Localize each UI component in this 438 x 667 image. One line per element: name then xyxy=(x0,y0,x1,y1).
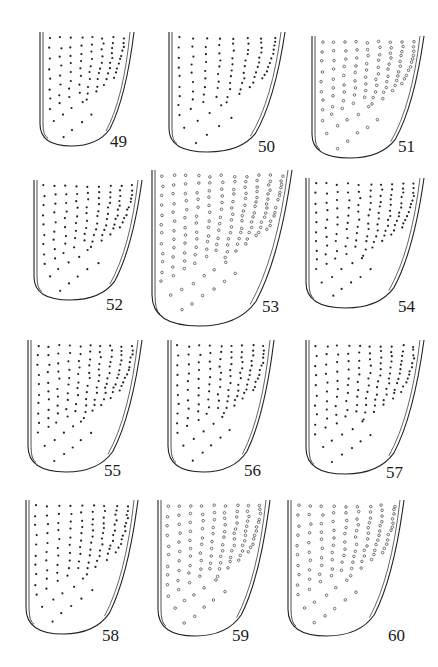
puncture-dot xyxy=(326,400,328,402)
puncture-dot xyxy=(35,555,37,557)
puncture-dot xyxy=(100,404,102,406)
puncture-dot xyxy=(365,63,368,66)
puncture-dot xyxy=(274,41,276,43)
puncture-dot xyxy=(57,405,59,407)
puncture-dot xyxy=(336,124,339,127)
puncture-dot xyxy=(264,212,267,215)
puncture-dot xyxy=(230,357,232,359)
puncture-dot xyxy=(201,537,204,540)
puncture-dot xyxy=(166,534,169,537)
puncture-dot xyxy=(118,200,120,202)
puncture-dot xyxy=(332,49,335,52)
puncture-dot xyxy=(69,46,71,48)
puncture-dot xyxy=(231,69,233,71)
puncture-dot xyxy=(69,544,71,546)
puncture-dot xyxy=(49,97,51,99)
puncture-dot xyxy=(119,205,121,207)
puncture-dot xyxy=(405,381,407,383)
puncture-dot xyxy=(121,50,123,52)
puncture-dot xyxy=(408,211,410,213)
puncture-dot xyxy=(55,193,57,195)
puncture-dot xyxy=(81,121,83,123)
puncture-dot xyxy=(194,253,197,256)
puncture-dot xyxy=(262,345,264,347)
puncture-dot xyxy=(326,193,328,195)
puncture-dot xyxy=(79,553,81,555)
puncture-dot xyxy=(37,413,39,415)
puncture-dot xyxy=(233,544,236,547)
puncture-dot xyxy=(49,37,51,39)
puncture-dot xyxy=(176,412,178,414)
puncture-dot xyxy=(172,184,175,187)
puncture-dot xyxy=(132,353,134,355)
puncture-dot xyxy=(266,207,269,210)
puncture-dot xyxy=(236,522,239,525)
puncture-dot xyxy=(321,51,324,54)
puncture-dot xyxy=(172,211,175,214)
puncture-dot xyxy=(47,382,49,384)
puncture-dot xyxy=(120,350,122,352)
puncture-dot xyxy=(124,377,126,379)
puncture-dot xyxy=(219,38,221,40)
puncture-dot xyxy=(184,174,187,177)
puncture-dot xyxy=(190,108,192,110)
puncture-dot xyxy=(79,546,81,548)
puncture-dot xyxy=(297,564,300,567)
puncture-dot xyxy=(355,40,358,43)
puncture-dot xyxy=(326,353,328,355)
puncture-dot xyxy=(166,565,169,568)
puncture-dot xyxy=(69,344,71,346)
puncture-dot xyxy=(380,201,382,203)
puncture-dot xyxy=(212,526,215,529)
puncture-dot xyxy=(109,202,111,204)
puncture-dot xyxy=(383,399,385,401)
puncture-dot xyxy=(253,344,255,346)
puncture-dot xyxy=(402,385,404,387)
puncture-dot xyxy=(373,241,375,243)
puncture-dot xyxy=(101,537,103,539)
puncture-dot xyxy=(255,201,258,204)
puncture-dot xyxy=(350,281,352,283)
puncture-dot xyxy=(344,415,346,417)
puncture-dot xyxy=(48,47,50,49)
puncture-dot xyxy=(69,528,71,530)
puncture-dot xyxy=(209,345,211,347)
puncture-dot xyxy=(211,540,214,543)
puncture-dot xyxy=(257,378,259,380)
puncture-dot xyxy=(77,567,79,569)
puncture-dot xyxy=(226,96,228,98)
puncture-dot xyxy=(126,373,128,375)
puncture-dot xyxy=(57,352,59,354)
puncture-dot xyxy=(252,350,254,352)
puncture-dot xyxy=(233,538,236,541)
puncture-dot xyxy=(97,78,99,80)
puncture-dot xyxy=(344,41,347,44)
puncture-dot xyxy=(219,358,221,360)
puncture-dot xyxy=(272,53,274,55)
puncture-dot xyxy=(112,540,114,542)
puncture-dot xyxy=(391,518,394,521)
puncture-dot xyxy=(370,190,372,192)
puncture-dot xyxy=(46,578,48,580)
puncture-dot xyxy=(184,234,187,237)
puncture-dot xyxy=(251,360,253,362)
puncture-dot xyxy=(161,271,164,274)
puncture-dot xyxy=(341,107,344,110)
puncture-dot xyxy=(97,210,99,212)
puncture-dot xyxy=(198,344,200,346)
puncture-dot xyxy=(315,240,317,242)
puncture-dot xyxy=(183,622,186,625)
puncture-dot xyxy=(346,228,348,230)
puncture-dot xyxy=(296,553,299,556)
puncture-dot xyxy=(400,202,402,204)
puncture-dot xyxy=(411,362,413,364)
puncture-dot xyxy=(400,54,403,57)
puncture-dot xyxy=(160,204,163,207)
puncture-dot xyxy=(352,561,355,564)
puncture-dot xyxy=(413,50,416,53)
puncture-dot xyxy=(103,527,105,529)
puncture-dot xyxy=(56,572,58,574)
puncture-dot xyxy=(399,373,401,375)
puncture-dot xyxy=(336,371,338,373)
puncture-dot xyxy=(162,252,165,255)
